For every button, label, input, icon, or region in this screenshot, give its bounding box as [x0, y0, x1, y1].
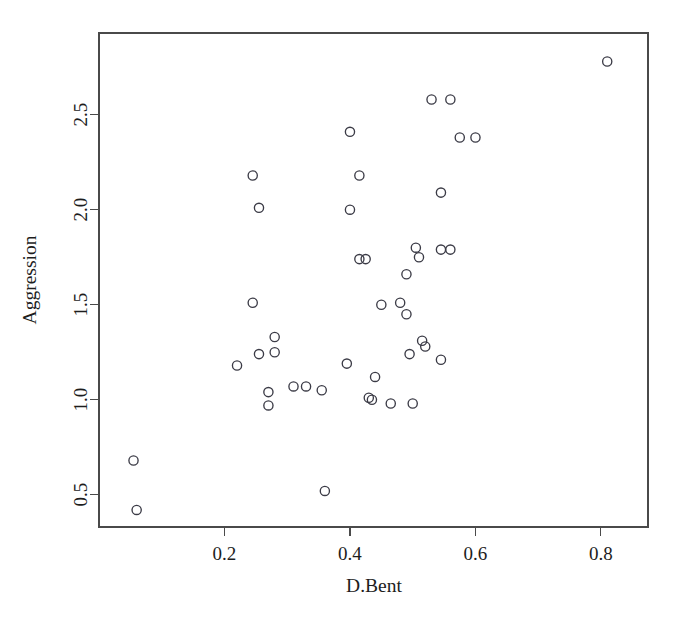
- scatter-point: [270, 332, 279, 341]
- scatter-point: [471, 133, 480, 142]
- scatter-plot-figure: 0.20.40.60.8 0.51.01.52.02.5 D.Bent Aggr…: [0, 0, 678, 621]
- y-tick-label: 0.5: [71, 483, 92, 507]
- scatter-point: [402, 270, 411, 279]
- scatter-point: [455, 133, 464, 142]
- scatter-point: [402, 310, 411, 319]
- scatter-point: [254, 350, 263, 359]
- x-axis-title: D.Bent: [346, 575, 402, 596]
- scatter-point: [367, 395, 376, 404]
- scatter-point: [603, 57, 612, 66]
- scatter-point: [377, 300, 386, 309]
- x-tick-label: 0.4: [338, 543, 362, 564]
- scatter-point: [342, 359, 351, 368]
- scatter-point: [436, 188, 445, 197]
- x-tick-label: 0.6: [464, 543, 488, 564]
- x-axis-ticks: [224, 527, 600, 536]
- scatter-point: [132, 505, 141, 514]
- scatter-point: [254, 203, 263, 212]
- scatter-point: [264, 388, 273, 397]
- scatter-point: [446, 95, 455, 104]
- scatter-point: [129, 456, 138, 465]
- scatter-point: [301, 382, 310, 391]
- scatter-point: [232, 361, 241, 370]
- scatter-point: [355, 171, 364, 180]
- scatter-point: [248, 171, 257, 180]
- scatter-point: [408, 399, 417, 408]
- scatter-point: [317, 386, 326, 395]
- y-tick-label: 1.5: [71, 293, 92, 317]
- scatter-point: [345, 127, 354, 136]
- data-point-series: [129, 57, 612, 515]
- scatter-point: [386, 399, 395, 408]
- scatter-point: [370, 372, 379, 381]
- y-tick-label: 2.5: [71, 103, 92, 127]
- x-tick-label: 0.2: [213, 543, 237, 564]
- scatter-point: [414, 253, 423, 262]
- scatter-point: [270, 348, 279, 357]
- scatter-point: [248, 298, 257, 307]
- scatter-point: [411, 243, 420, 252]
- chart-canvas: 0.20.40.60.8 0.51.01.52.02.5 D.Bent Aggr…: [0, 0, 678, 621]
- x-tick-label: 0.8: [589, 543, 613, 564]
- scatter-point: [436, 245, 445, 254]
- scatter-point: [436, 355, 445, 364]
- y-tick-label: 1.0: [71, 388, 92, 412]
- scatter-point: [446, 245, 455, 254]
- plot-frame: [99, 33, 648, 527]
- scatter-point: [320, 486, 329, 495]
- y-tick-label: 2.0: [71, 198, 92, 222]
- scatter-point: [396, 298, 405, 307]
- scatter-point: [361, 255, 370, 264]
- y-axis-title: Aggression: [19, 235, 40, 324]
- scatter-point: [427, 95, 436, 104]
- scatter-point: [289, 382, 298, 391]
- x-axis-tick-labels: 0.20.40.60.8: [213, 543, 613, 564]
- y-axis-tick-labels: 0.51.01.52.02.5: [71, 103, 92, 507]
- scatter-point: [345, 205, 354, 214]
- scatter-point: [264, 401, 273, 410]
- scatter-point: [405, 350, 414, 359]
